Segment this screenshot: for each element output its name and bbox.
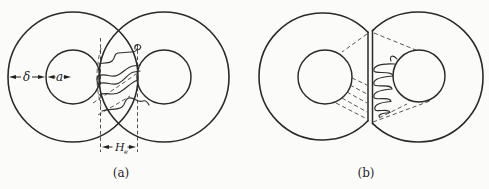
fan-line — [374, 33, 416, 50]
panel-b-left-inner-circle — [298, 50, 352, 104]
arrowhead-left — [9, 75, 16, 79]
core-radius-label: a — [56, 70, 63, 84]
panel-a-polymer-chains — [97, 45, 149, 111]
fan-line — [352, 78, 367, 85]
polymer-chain — [102, 98, 149, 111]
panel-a-caption: (a) — [113, 166, 130, 180]
arrowhead-right — [38, 75, 45, 79]
polymer-chain — [99, 80, 138, 95]
h-subscript: e — [124, 148, 128, 156]
panel-a-core-radius-dimension: a — [48, 70, 72, 84]
fan-line — [347, 92, 367, 103]
fan-line — [350, 85, 367, 94]
panel-a-right-outer-circle — [99, 12, 229, 142]
panel-b-right-outer-body — [373, 12, 484, 142]
arrowhead-left — [48, 75, 55, 79]
figure-canvas: δ a H e (a) — [0, 0, 489, 189]
delta-label: δ — [23, 70, 30, 84]
panel-b: (b) — [259, 12, 483, 180]
panel-b-chain-coil — [374, 56, 397, 117]
fan-line — [342, 34, 367, 52]
arrowhead-left — [102, 145, 109, 149]
panel-a: δ a H e (a) — [8, 12, 229, 180]
panel-b-right-inner-circle — [393, 50, 445, 102]
fan-line — [336, 103, 367, 119]
figure-two-particle-diagram: δ a H e (a) — [0, 0, 489, 189]
arrowhead-right — [64, 75, 71, 79]
panel-a-right-inner-circle — [137, 50, 191, 104]
arrowhead-right — [129, 145, 136, 149]
fan-line — [373, 101, 430, 122]
panel-a-delta-dimension: δ — [9, 70, 45, 84]
panel-b-caption: (b) — [357, 166, 374, 180]
coil-loops — [374, 64, 395, 117]
fan-line — [342, 98, 367, 112]
coil-hook — [390, 56, 397, 61]
panel-a-h-dimension: H e — [102, 141, 136, 156]
polymer-chain — [98, 65, 140, 76]
chain-end-loop — [97, 76, 98, 84]
